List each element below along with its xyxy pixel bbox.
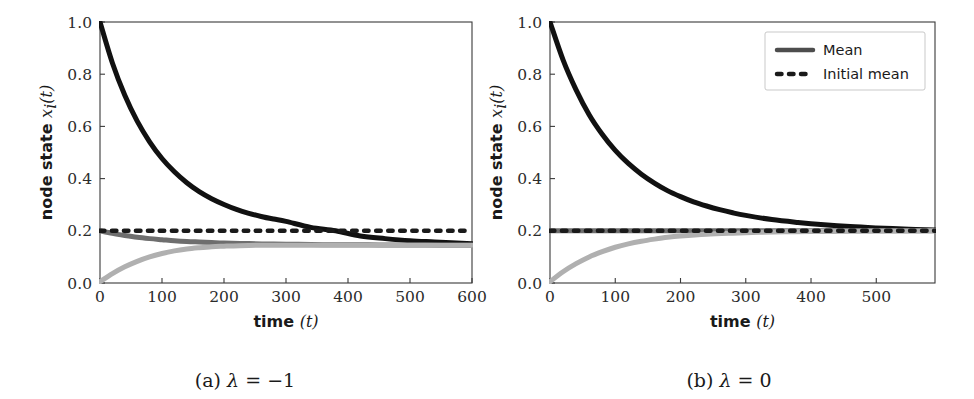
x-tick-label: 200 [209, 288, 239, 306]
panel-a-caption-value: −1 [267, 369, 295, 391]
panel-a-caption-prefix: (a) [195, 369, 221, 391]
y-axis-title: node state xi(t) [487, 85, 510, 220]
x-tick-label: 0 [95, 288, 105, 306]
x-tick-label: 400 [333, 288, 363, 306]
y-tick-label: 0.6 [517, 118, 542, 136]
x-tick-label: 500 [395, 288, 425, 306]
y-axis-title-arg: (t) [37, 85, 56, 104]
plot-area-b: 01002003004005000.00.20.40.60.81.0time (… [484, 0, 974, 340]
panel-a-caption-symbol: λ [227, 369, 239, 391]
y-axis-title-group: node state xi(t) [487, 85, 510, 220]
x-axis-title: time (t) [253, 312, 318, 331]
x-tick-label: 600 [457, 288, 487, 306]
plot-area-a: 01002003004005006000.00.20.40.60.81.0tim… [0, 0, 490, 340]
y-tick-label: 1.0 [517, 14, 542, 32]
panel-b-caption-prefix: (b) [686, 369, 713, 391]
panel-b-caption-symbol: λ [719, 369, 731, 391]
panel-a-caption-relation: = [245, 369, 261, 391]
y-tick-label: 0.8 [517, 66, 542, 84]
y-tick-label: 0.2 [67, 222, 92, 240]
x-tick-label: 0 [545, 288, 555, 306]
y-tick-label: 0.6 [67, 118, 92, 136]
y-axis-title-group: node state xi(t) [37, 85, 60, 220]
x-tick-label: 400 [796, 288, 826, 306]
panel-a: 01002003004005006000.00.20.40.60.81.0tim… [0, 0, 490, 399]
y-tick-label: 0.8 [67, 66, 92, 84]
x-tick-label: 500 [861, 288, 891, 306]
y-axis-title-arg: (t) [487, 85, 506, 104]
panel-a-caption: (a) λ = −1 [0, 369, 490, 391]
panel-b: 01002003004005000.00.20.40.60.81.0time (… [484, 0, 974, 399]
figure-container: 01002003004005006000.00.20.40.60.81.0tim… [0, 0, 974, 399]
y-tick-label: 0.4 [67, 170, 92, 188]
x-tick-label: 100 [600, 288, 630, 306]
x-tick-label: 300 [271, 288, 301, 306]
y-tick-label: 1.0 [67, 14, 92, 32]
y-axis-title-var: x [37, 109, 56, 118]
y-tick-label: 0.0 [67, 275, 92, 293]
x-tick-label: 200 [666, 288, 696, 306]
legend-label-initial-mean: Initial mean [823, 66, 909, 82]
y-axis-title-var: x [487, 109, 506, 118]
y-tick-label: 0.0 [517, 275, 542, 293]
panel-b-caption: (b) λ = 0 [484, 369, 974, 391]
panel-b-caption-value: 0 [760, 369, 772, 391]
x-axis-title: time (t) [710, 312, 775, 331]
legend-label-mean: Mean [823, 42, 863, 58]
x-tick-label: 100 [147, 288, 177, 306]
panel-b-caption-relation: = [738, 369, 754, 391]
x-axis-title-math: (t) [300, 312, 319, 331]
x-axis-title-math: (t) [756, 312, 775, 331]
y-tick-label: 0.4 [517, 170, 542, 188]
y-tick-label: 0.2 [517, 222, 542, 240]
legend[interactable]: MeanInitial mean [765, 32, 925, 90]
x-tick-label: 300 [731, 288, 761, 306]
y-axis-title: node state xi(t) [37, 85, 60, 220]
